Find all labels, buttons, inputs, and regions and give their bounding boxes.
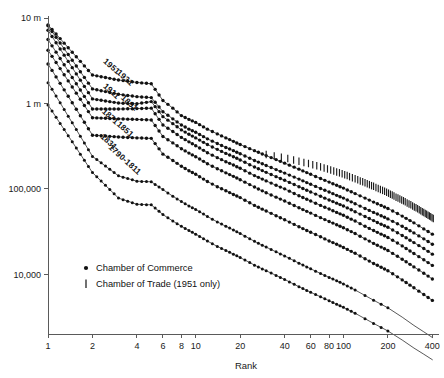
data-point	[363, 207, 366, 210]
data-point	[297, 167, 300, 170]
data-point-interpolated	[301, 169, 304, 172]
data-point-interpolated	[257, 266, 260, 269]
data-point-interpolated	[404, 236, 407, 239]
data-point	[386, 226, 389, 229]
data-point-interpolated	[305, 171, 308, 174]
data-point	[117, 197, 120, 200]
data-point-interpolated	[75, 108, 78, 111]
data-point	[161, 115, 164, 118]
data-point-interpolated	[338, 244, 341, 247]
data-point-interpolated	[191, 129, 194, 132]
data-point	[171, 141, 174, 144]
data-point-interpolated	[157, 93, 160, 96]
data-point	[342, 196, 345, 199]
data-point	[187, 205, 190, 208]
data-point	[194, 144, 197, 147]
data-point	[117, 174, 120, 177]
data-point	[216, 156, 219, 159]
series-1951	[46, 23, 434, 236]
data-point	[187, 151, 190, 154]
data-point-interpolated	[211, 130, 214, 133]
data-point	[135, 180, 138, 183]
data-point-interpolated	[131, 118, 134, 121]
data-point	[161, 135, 164, 138]
data-point-interpolated	[176, 222, 179, 225]
data-point	[335, 211, 338, 214]
data-point-interpolated	[55, 116, 58, 119]
data-point	[224, 171, 227, 174]
data-point-interpolated	[338, 203, 341, 206]
data-point-interpolated	[158, 186, 161, 189]
data-point-interpolated	[67, 79, 70, 82]
y-tick-label: 100,000	[8, 184, 41, 194]
data-point-interpolated	[350, 200, 353, 203]
data-point-interpolated	[323, 218, 326, 221]
data-point	[206, 180, 209, 183]
data-point-interpolated	[145, 118, 148, 121]
data-point-interpolated	[368, 217, 371, 220]
data-point-interpolated	[391, 209, 394, 212]
data-point-interpolated	[112, 107, 115, 110]
data-point	[150, 106, 153, 109]
data-point	[264, 209, 267, 212]
data-point-interpolated	[191, 134, 194, 137]
data-point-interpolated	[126, 177, 129, 180]
data-point-interpolated	[301, 196, 304, 199]
data-point-interpolated	[83, 121, 86, 124]
x-tick-label: 1	[45, 341, 50, 351]
data-point	[401, 244, 404, 247]
data-point-interpolated	[301, 179, 304, 182]
data-point-interpolated	[83, 141, 86, 144]
data-point	[274, 214, 277, 217]
data-point-interpolated	[235, 176, 238, 179]
data-point-interpolated	[323, 196, 326, 199]
data-point	[353, 210, 356, 213]
data-point	[379, 204, 382, 207]
data-point	[372, 211, 375, 214]
data-point	[342, 282, 345, 285]
data-point-interpolated	[338, 225, 341, 228]
data-point	[353, 192, 356, 195]
data-point	[386, 236, 389, 239]
data-point-interpolated	[95, 98, 98, 101]
data-point	[206, 127, 209, 130]
data-point-interpolated	[198, 235, 201, 238]
data-point	[309, 211, 312, 214]
legend-label: Chamber of Commerce	[96, 263, 193, 273]
legend: Chamber of CommerceChamber of Trade (195…	[84, 263, 220, 289]
data-point-interpolated	[391, 272, 394, 275]
data-point	[319, 177, 322, 180]
data-point	[431, 277, 434, 280]
data-point	[327, 207, 330, 210]
data-point-interpolated	[202, 149, 205, 152]
data-point-interpolated	[104, 184, 107, 187]
data-point-interpolated	[261, 207, 264, 210]
data-point	[372, 219, 375, 222]
data-point	[275, 274, 278, 277]
data-point-interpolated	[79, 114, 82, 117]
data-point-interpolated	[183, 167, 186, 170]
data-point-interpolated	[140, 95, 143, 98]
data-point-interpolated	[391, 239, 394, 242]
data-point	[187, 169, 190, 172]
data-point-interpolated	[331, 182, 334, 185]
data-point-interpolated	[338, 195, 341, 198]
data-point-interpolated	[269, 173, 272, 176]
data-point-interpolated	[50, 44, 53, 47]
data-point	[431, 243, 434, 246]
data-point-interpolated	[368, 209, 371, 212]
data-point	[401, 234, 404, 237]
data-point	[171, 122, 174, 125]
data-point-interpolated	[408, 239, 411, 242]
data-point-interpolated	[346, 248, 349, 251]
data-point-interpolated	[257, 160, 260, 163]
data-point	[283, 179, 286, 182]
data-point	[180, 225, 183, 228]
data-point	[171, 117, 174, 120]
data-point	[327, 180, 330, 183]
data-point-interpolated	[175, 144, 178, 147]
data-point-interpolated	[269, 181, 272, 184]
data-point	[171, 220, 174, 223]
data-point-interpolated	[63, 108, 66, 111]
x-tick-label: 8	[179, 341, 184, 351]
